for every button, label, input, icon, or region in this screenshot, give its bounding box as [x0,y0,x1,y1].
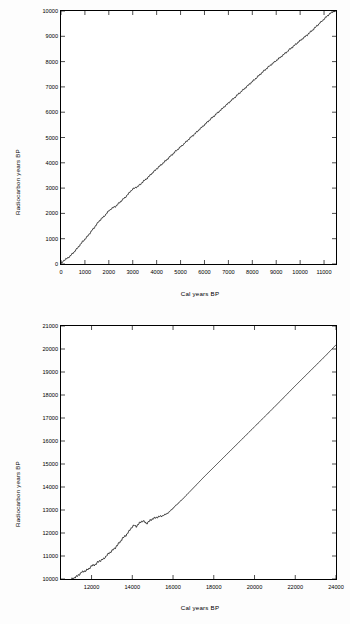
y-tick-label: 10000 [28,8,58,14]
x-tick-label: 20000 [241,584,269,590]
y-tick-label: 9000 [28,33,58,39]
y-tick-label: 19000 [28,369,58,375]
panel-a-tick-marks [61,11,336,264]
y-tick-label: 7000 [28,84,58,90]
y-tick-label: 12000 [28,530,58,536]
panel-b-curve-canvas [61,326,336,579]
y-tick-label: 0 [28,261,58,267]
figure-page: Radiocarbon years BP Cal years BP A 0100… [0,0,350,624]
x-tick-label: 16000 [159,584,187,590]
y-tick-label: 10000 [28,576,58,582]
y-tick-label: 15000 [28,461,58,467]
y-tick-label: 1000 [28,236,58,242]
y-tick-label: 13000 [28,507,58,513]
panel-a-calibration-curve [61,11,336,263]
y-tick-label: 8000 [28,59,58,65]
y-tick-label: 3000 [28,185,58,191]
x-tick-label: 22000 [281,584,309,590]
x-tick-label: 18000 [200,584,228,590]
y-tick-label: 11000 [28,553,58,559]
panel-a-y-axis-label: Radiocarbon years BP [14,149,21,215]
panel-a-plot-area [60,10,337,265]
y-tick-label: 17000 [28,415,58,421]
x-tick-label: 12000 [78,584,106,590]
x-tick-label: 24000 [322,584,350,590]
panel-b: Radiocarbon years BP Cal years BP B 1000… [0,312,350,624]
y-tick-label: 6000 [28,109,58,115]
x-tick-label: 14000 [118,584,146,590]
panel-a-x-axis-label: Cal years BP [60,290,340,297]
x-tick-label: 11000 [310,269,338,275]
panel-b-tick-marks [61,326,336,579]
y-tick-label: 4000 [28,160,58,166]
y-tick-label: 18000 [28,392,58,398]
panel-b-y-axis-label: Radiocarbon years BP [14,461,21,527]
y-tick-label: 14000 [28,484,58,490]
y-tick-label: 21000 [28,323,58,329]
panel-a-curve-canvas [61,11,336,264]
panel-a: Radiocarbon years BP Cal years BP A 0100… [0,0,350,312]
y-tick-label: 2000 [28,210,58,216]
y-tick-label: 5000 [28,135,58,141]
panel-b-plot-area [60,325,337,580]
panel-b-calibration-curve [70,345,336,579]
y-tick-label: 20000 [28,346,58,352]
y-tick-label: 16000 [28,438,58,444]
panel-b-x-axis-label: Cal years BP [60,604,340,611]
